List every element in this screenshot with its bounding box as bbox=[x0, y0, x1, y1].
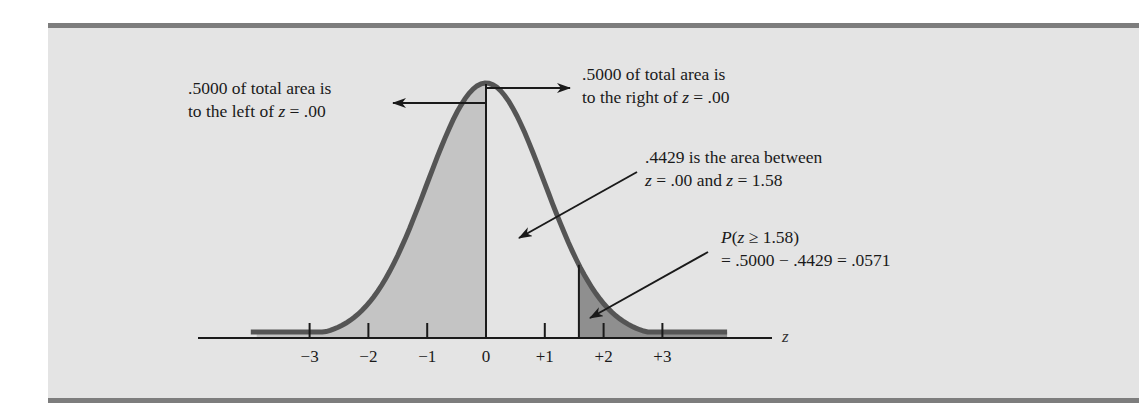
tick-label: +3 bbox=[653, 347, 671, 367]
tick-label: 0 bbox=[482, 347, 491, 367]
right-half-line-1: .5000 of total area is bbox=[582, 63, 729, 86]
normal-curve-plot bbox=[0, 0, 1139, 419]
tick-label: +1 bbox=[536, 347, 554, 367]
left-half-line-1: .5000 of total area is bbox=[188, 77, 331, 100]
between-line-2: z = .00 and z = 1.58 bbox=[645, 169, 822, 192]
axis-label-z: z bbox=[782, 327, 789, 347]
between-line-1: .4429 is the area between bbox=[645, 146, 822, 169]
tick-label: +2 bbox=[595, 347, 613, 367]
right-half-annotation: .5000 of total area is to the right of z… bbox=[582, 63, 729, 109]
tail-line-1: P(z ≥ 1.58) bbox=[721, 226, 891, 249]
tick-label: −3 bbox=[301, 347, 319, 367]
tail-area-arrow bbox=[590, 252, 708, 318]
between-area-annotation: .4429 is the area between z = .00 and z … bbox=[645, 146, 822, 192]
tick-label: −2 bbox=[359, 347, 377, 367]
tail-probability-annotation: P(z ≥ 1.58) = .5000 − .4429 = .0571 bbox=[721, 226, 891, 272]
left-half-line-2: to the left of z = .00 bbox=[188, 100, 331, 123]
tick-label: −1 bbox=[418, 347, 436, 367]
right-half-line-2: to the right of z = .00 bbox=[582, 86, 729, 109]
between-area-arrow bbox=[519, 172, 637, 238]
tail-line-2: = .5000 − .4429 = .0571 bbox=[721, 249, 891, 272]
left-half-annotation: .5000 of total area is to the left of z … bbox=[188, 77, 331, 123]
